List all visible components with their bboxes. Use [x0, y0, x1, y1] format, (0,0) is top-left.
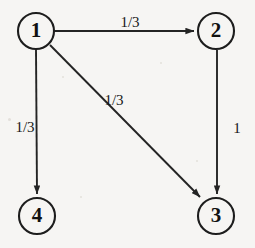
- node-3: 3: [198, 198, 234, 234]
- directed-graph-diagram: 1/3 1/3 1/3 1 1: [0, 0, 255, 248]
- edge-1-to-3-label: 1/3: [104, 92, 123, 108]
- edge-1-to-2-label: 1/3: [120, 14, 139, 30]
- node-2-label: 2: [211, 18, 222, 42]
- node-4: 4: [19, 198, 55, 234]
- edge-1-to-4-label: 1/3: [15, 119, 34, 135]
- edge-2-to-3: 1: [217, 50, 241, 194]
- edge-1-to-4: 1/3: [15, 50, 37, 194]
- node-3-label: 3: [211, 203, 222, 227]
- node-2: 2: [198, 13, 234, 49]
- edge-1-to-3: 1/3: [50, 45, 200, 197]
- node-1-label: 1: [31, 18, 42, 42]
- figure-canvas: 1/3 1/3 1/3 1 1: [0, 0, 255, 248]
- edge-1-to-3-line: [50, 45, 200, 197]
- edge-1-to-4-line: [36, 50, 37, 194]
- node-4-label: 4: [32, 203, 43, 227]
- node-1: 1: [18, 13, 54, 49]
- edge-2-to-3-label: 1: [233, 120, 241, 136]
- edge-1-to-2: 1/3: [55, 14, 194, 31]
